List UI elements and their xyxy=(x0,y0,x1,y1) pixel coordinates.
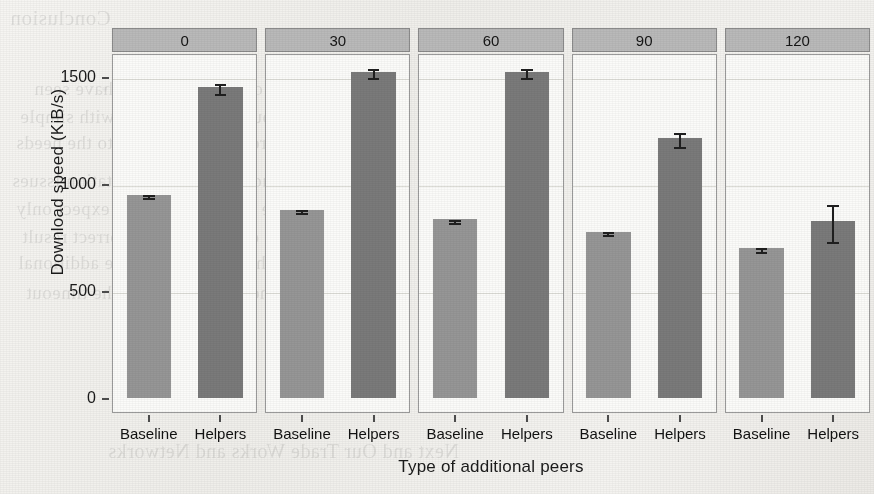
x-tick-mark xyxy=(301,415,303,422)
x-axis-title: Type of additional peers xyxy=(112,457,870,477)
error-bar-cap-lower xyxy=(449,223,461,225)
panel-plot-area xyxy=(265,54,410,413)
y-tick-mark xyxy=(102,398,109,400)
y-tick-mark xyxy=(102,184,109,186)
bar-helpers xyxy=(198,87,242,398)
error-bar-cap-upper xyxy=(603,232,615,234)
y-tick-label: 1000 xyxy=(34,175,96,193)
error-bar-cap-upper xyxy=(521,69,533,71)
y-tick-label: 1500 xyxy=(34,68,96,86)
x-tick-mark xyxy=(219,415,221,422)
panel-plot-area xyxy=(112,54,257,413)
gridline xyxy=(726,79,869,80)
facet-panel: 30 xyxy=(265,28,410,413)
facet-panel: 60 xyxy=(418,28,563,413)
facet-strip-label: 90 xyxy=(572,28,717,52)
facet-strip-label: 60 xyxy=(418,28,563,52)
y-tick-label: 0 xyxy=(34,389,96,407)
error-bar-cap-lower xyxy=(756,252,768,254)
x-tick-mark xyxy=(761,415,763,422)
x-tick-label-helpers: Helpers xyxy=(329,425,419,442)
x-tick-label-helpers: Helpers xyxy=(175,425,265,442)
panel-plot-area xyxy=(572,54,717,413)
error-bar-cap-lower xyxy=(827,242,839,244)
x-tick-mark xyxy=(148,415,150,422)
x-tick-mark xyxy=(607,415,609,422)
error-bar-cap-lower xyxy=(143,198,155,200)
y-tick-mark xyxy=(102,77,109,79)
facet-strip-label: 0 xyxy=(112,28,257,52)
error-bar-cap-upper xyxy=(756,248,768,250)
bar-baseline xyxy=(433,219,477,398)
bar-helpers xyxy=(658,138,702,398)
error-bar-cap-upper xyxy=(674,133,686,135)
x-tick-mark xyxy=(679,415,681,422)
error-bar-cap-upper xyxy=(368,69,380,71)
x-tick-mark xyxy=(454,415,456,422)
bar-baseline xyxy=(280,210,324,398)
gridline xyxy=(113,79,256,80)
y-tick-mark xyxy=(102,291,109,293)
x-tick-mark xyxy=(373,415,375,422)
x-tick-label-helpers: Helpers xyxy=(482,425,572,442)
y-tick-label: 500 xyxy=(34,282,96,300)
bar-baseline xyxy=(586,232,630,398)
error-bar-cap-upper xyxy=(296,210,308,212)
x-tick-label-helpers: Helpers xyxy=(788,425,874,442)
facet-panel: 0 xyxy=(112,28,257,413)
x-tick-mark xyxy=(832,415,834,422)
bar-helpers xyxy=(811,221,855,398)
error-bar-cap-lower xyxy=(368,78,380,80)
facet-strip-label: 120 xyxy=(725,28,870,52)
facet-panel: 90 xyxy=(572,28,717,413)
error-bar-cap-lower xyxy=(215,94,227,96)
bar-baseline xyxy=(127,195,171,398)
facet-strip-label: 30 xyxy=(265,28,410,52)
panel-plot-area xyxy=(418,54,563,413)
facet-panel: 120 xyxy=(725,28,870,413)
error-bar-cap-lower xyxy=(521,78,533,80)
x-tick-label-helpers: Helpers xyxy=(635,425,725,442)
error-bar-cap-lower xyxy=(296,213,308,215)
gridline xyxy=(573,79,716,80)
gridline xyxy=(726,186,869,187)
error-bar-cap-lower xyxy=(603,235,615,237)
bar-baseline xyxy=(739,248,783,398)
error-bar-line xyxy=(832,205,834,241)
error-bar-line xyxy=(679,133,681,148)
panel-plot-area xyxy=(725,54,870,413)
error-bar-cap-upper xyxy=(143,195,155,197)
bar-helpers xyxy=(351,72,395,398)
bar-chart-figure: Download speed (KiB/s) 050010001500 0Bas… xyxy=(0,0,874,494)
x-tick-mark xyxy=(526,415,528,422)
bar-helpers xyxy=(505,72,549,398)
error-bar-cap-upper xyxy=(827,205,839,207)
error-bar-cap-upper xyxy=(215,84,227,86)
error-bar-cap-lower xyxy=(674,147,686,149)
